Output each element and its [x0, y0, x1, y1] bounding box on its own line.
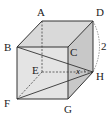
- label-length-2: 2: [101, 40, 107, 52]
- label-A: A: [37, 6, 45, 18]
- dimension-arc-DH: [93, 21, 100, 72]
- label-angle-x: x: [75, 66, 80, 76]
- label-E: E: [32, 64, 39, 76]
- label-D: D: [96, 6, 104, 18]
- label-B: B: [4, 41, 11, 53]
- label-C: C: [70, 46, 77, 58]
- label-G: G: [64, 103, 72, 115]
- cube-diagram: A D B C E H F G 2 x: [0, 0, 110, 117]
- label-F: F: [4, 97, 10, 109]
- label-H: H: [96, 70, 104, 82]
